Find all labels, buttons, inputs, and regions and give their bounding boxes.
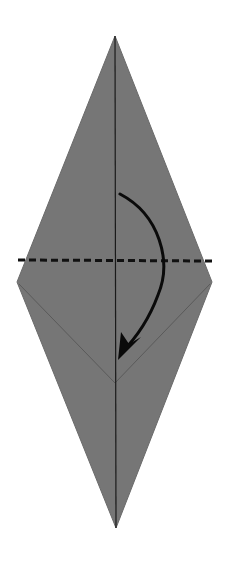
diagram-svg: [0, 0, 244, 562]
paper-kite-shape: [17, 36, 212, 528]
origami-diagram: Kite/diamond shape with a valley fold li…: [0, 0, 244, 562]
